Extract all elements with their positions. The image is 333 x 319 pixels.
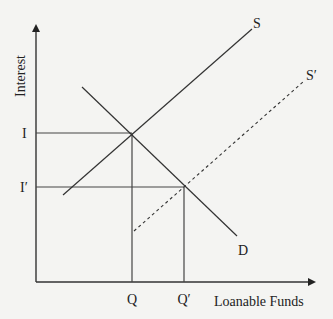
quantity-label-Q: Q (127, 292, 137, 307)
x-axis-label: Loanable Funds (214, 294, 304, 309)
loanable-funds-diagram: Interest Loanable Funds I I′ Q Q′ S S′ D (0, 0, 333, 319)
curve-label-S-prime: S′ (306, 68, 317, 83)
interest-label-I: I (22, 126, 27, 141)
interest-label-I-prime: I′ (20, 180, 28, 195)
curve-label-D: D (238, 243, 248, 258)
supply-curve-S (63, 29, 252, 195)
y-axis-label: Interest (13, 55, 28, 97)
curve-label-S: S (253, 16, 261, 31)
demand-curve-D (82, 87, 237, 236)
supply-curve-S-prime (134, 82, 303, 231)
quantity-label-Q-prime: Q′ (177, 292, 190, 307)
